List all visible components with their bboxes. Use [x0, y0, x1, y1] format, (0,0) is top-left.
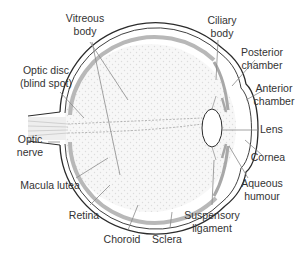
- svg-text:Suspensory: Suspensory: [184, 209, 240, 221]
- label-sclera: Sclera: [152, 233, 182, 245]
- svg-text:Optic disc: Optic disc: [23, 64, 69, 76]
- label-ciliary-body: Ciliary body: [207, 14, 237, 39]
- svg-text:Posterior: Posterior: [241, 46, 284, 58]
- svg-text:Lens: Lens: [260, 123, 283, 135]
- svg-text:Ciliary: Ciliary: [207, 14, 237, 26]
- label-anterior-chamber: Anterior chamber: [254, 82, 295, 107]
- svg-text:Aqueous: Aqueous: [241, 177, 282, 189]
- label-retina: Retina: [69, 209, 100, 221]
- svg-text:Anterior: Anterior: [256, 82, 293, 94]
- svg-text:humour: humour: [244, 190, 280, 202]
- label-lens: Lens: [260, 123, 283, 135]
- label-posterior-chamber: Posterior chamber: [241, 46, 284, 71]
- label-suspensory-ligament: Suspensory ligament: [184, 209, 240, 234]
- svg-text:chamber: chamber: [242, 59, 283, 71]
- label-macula-lutea: Macula lutea: [20, 179, 80, 191]
- svg-text:body: body: [211, 27, 235, 39]
- svg-text:Macula lutea: Macula lutea: [20, 179, 80, 191]
- svg-text:chamber: chamber: [254, 95, 295, 107]
- svg-text:(blind spot): (blind spot): [20, 77, 72, 89]
- label-vitreous-body: Vitreous body: [66, 12, 104, 37]
- svg-text:nerve: nerve: [17, 146, 43, 158]
- label-aqueous-humour: Aqueous humour: [241, 177, 282, 202]
- label-cornea: Cornea: [251, 151, 286, 163]
- svg-text:Retina: Retina: [69, 209, 100, 221]
- svg-text:Optic: Optic: [18, 133, 43, 145]
- svg-text:Vitreous: Vitreous: [66, 12, 104, 24]
- svg-text:body: body: [74, 25, 98, 37]
- label-choroid: Choroid: [104, 233, 141, 245]
- svg-text:ligament: ligament: [192, 222, 232, 234]
- svg-text:Cornea: Cornea: [251, 151, 286, 163]
- label-optic-nerve: Optic nerve: [17, 133, 43, 158]
- label-optic-disc: Optic disc (blind spot): [20, 64, 72, 89]
- eye-anatomy-diagram: Vitreous body Optic disc (blind spot) Op…: [0, 0, 303, 253]
- svg-text:Sclera: Sclera: [152, 233, 182, 245]
- svg-text:Choroid: Choroid: [104, 233, 141, 245]
